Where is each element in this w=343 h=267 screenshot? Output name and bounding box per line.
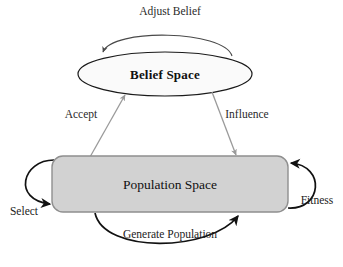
edge-label-influence: Influence: [225, 108, 268, 120]
edge-accept: Accept: [65, 95, 125, 157]
belief-space-label: Belief Space: [130, 67, 200, 82]
edge-generate-population: Generate Population: [95, 213, 238, 243]
edge-influence: Influence: [212, 92, 269, 155]
edge-label-fitness: Fitness: [301, 194, 334, 206]
select-loop: [25, 160, 54, 204]
edge-label-accept: Accept: [65, 108, 98, 121]
edge-label-adjust-belief: Adjust Belief: [139, 5, 201, 18]
influence-arrow: [212, 92, 236, 155]
population-space-label: Population Space: [123, 177, 217, 192]
edge-select: Select: [10, 160, 54, 217]
diagram-canvas: Adjust Belief Belief Space Accept Influe…: [0, 0, 343, 267]
node-belief-space[interactable]: Belief Space: [78, 52, 252, 96]
accept-arrow: [90, 95, 125, 157]
edge-label-generate-population: Generate Population: [123, 228, 217, 241]
edge-label-select: Select: [10, 205, 39, 217]
edge-fitness: Fitness: [288, 163, 334, 208]
node-population-space[interactable]: Population Space: [52, 156, 288, 212]
edge-adjust-belief: Adjust Belief: [103, 5, 232, 56]
diagram-svg: Adjust Belief Belief Space Accept Influe…: [0, 0, 343, 267]
